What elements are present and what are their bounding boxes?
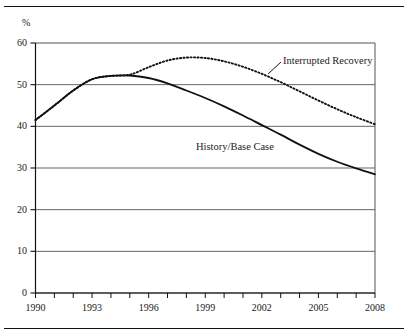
series-line-interrupted-recovery bbox=[36, 57, 376, 124]
series-label-history-base-case: History/Base Case bbox=[196, 141, 274, 152]
x-tick-label: 1990 bbox=[16, 303, 56, 313]
y-tick-label: 30 bbox=[5, 163, 27, 173]
x-tick-label: 2005 bbox=[298, 303, 338, 313]
gridlines bbox=[36, 43, 376, 293]
y-tick-label: 10 bbox=[5, 246, 27, 256]
x-tick-label: 1999 bbox=[185, 303, 225, 313]
chart-figure: % 0102030405060 199019931996199920022005… bbox=[0, 0, 409, 335]
leader-line-interrupted-recovery bbox=[268, 62, 281, 74]
y-tick-label: 60 bbox=[5, 38, 27, 48]
y-tick-label: 50 bbox=[5, 80, 27, 90]
series-line-history-base-case bbox=[36, 75, 376, 174]
plot-area bbox=[0, 0, 409, 335]
x-tick-label: 1996 bbox=[129, 303, 169, 313]
y-tick-label: 0 bbox=[5, 288, 27, 298]
x-axis-ticks bbox=[36, 293, 376, 298]
y-tick-label: 20 bbox=[5, 205, 27, 215]
x-tick-label: 2002 bbox=[242, 303, 282, 313]
bottom-rule bbox=[4, 328, 404, 329]
y-axis-ticks bbox=[31, 43, 36, 293]
series-label-interrupted-recovery: Interrupted Recovery bbox=[283, 55, 373, 66]
x-tick-label: 2008 bbox=[355, 303, 395, 313]
y-tick-label: 40 bbox=[5, 121, 27, 131]
x-tick-label: 1993 bbox=[72, 303, 112, 313]
